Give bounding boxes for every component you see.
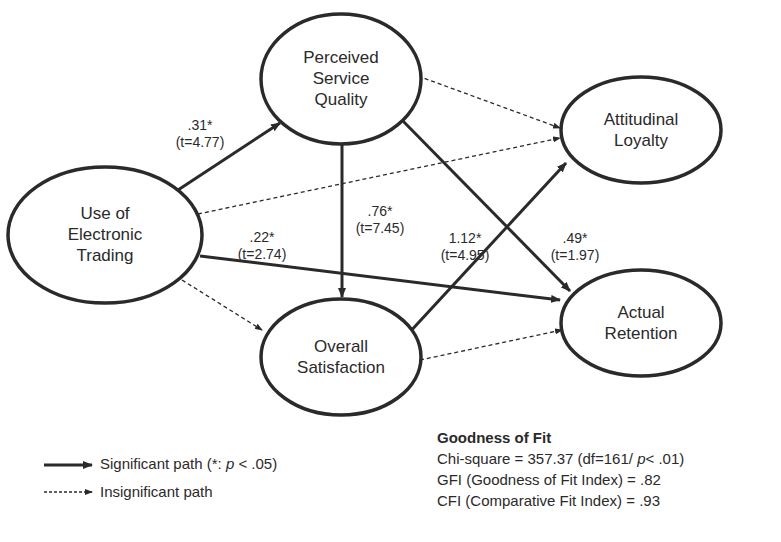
node-ar-label: Actual Retention [566,302,716,344]
coef-psq-ar: .49*(t=1.97) [540,230,610,264]
legend-insignificant: Insignificant path [100,483,213,500]
node-use-label: Use of Electronic Trading [30,203,180,266]
fit-title: Goodness of Fit [437,427,684,448]
node-al-label: Attitudinal Loyalty [566,109,716,151]
coef-use-ar: .22*(t=2.74) [222,229,302,263]
coef-psq-os: .76*(t=7.45) [345,203,415,237]
coef-os-al: 1.12*(t=4.95) [425,230,505,264]
node-os-label: Overall Satisfaction [266,336,416,378]
path-psq-al [418,76,560,128]
goodness-of-fit: Goodness of Fit Chi-square = 357.37 (df=… [437,427,684,511]
fit-gfi: GFI (Goodness of Fit Index) = .82 [437,469,684,490]
path-use-os [182,280,262,330]
path-psq-ar [400,118,570,291]
coef-use-psq: .31*(t=4.77) [160,117,240,151]
fit-chi: Chi-square = 357.37 (df=161/ p< .01) [437,448,684,469]
legend-significant: Significant path (*: p < .05) [100,455,277,472]
node-psq-label: Perceived Service Quality [266,47,416,110]
fit-cfi: CFI (Comparative Fit Index) = .93 [437,490,684,511]
path-os-ar [420,330,562,360]
